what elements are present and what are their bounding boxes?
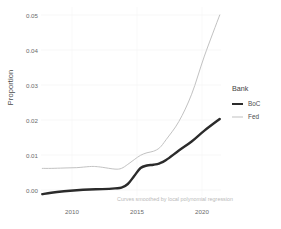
chart-caption: Curves smoothed by local polynomial regr… [100, 196, 250, 202]
legend-item-fed[interactable]: Fed [231, 111, 279, 122]
plot-area-svg [41, 7, 221, 196]
series-line-fed [42, 15, 219, 169]
legend-items: BoCFed [231, 98, 279, 122]
legend-item-label: Fed [244, 113, 259, 120]
chart-figure: Proportion 0.050.040.030.020.010.00 2010… [0, 0, 281, 229]
legend-line-icon [231, 98, 244, 109]
legend-item-boc[interactable]: BoC [231, 98, 279, 109]
legend-item-label: BoC [244, 100, 260, 107]
plot-panel [41, 7, 221, 196]
legend-title: Bank [231, 84, 279, 93]
series-lines [42, 15, 219, 194]
x-tick-label: 2015 [119, 208, 155, 215]
legend-line-icon [231, 111, 244, 122]
x-tick-label: 2020 [184, 208, 220, 215]
series-line-boc [42, 119, 219, 194]
x-tick-label: 2010 [54, 208, 90, 215]
legend: Bank BoCFed [231, 84, 279, 124]
